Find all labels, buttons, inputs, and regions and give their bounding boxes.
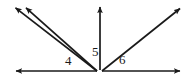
- angle-label-4: 4: [65, 54, 72, 67]
- angle-label-6: 6: [119, 53, 126, 66]
- ray-upper-left-outer: [16, 8, 98, 71]
- ray-group: [16, 7, 181, 71]
- angle-diagram: 4 5 6: [0, 0, 194, 77]
- geometry-canvas: [0, 0, 194, 77]
- angle-label-5: 5: [92, 45, 99, 58]
- ray-upper-left-inner: [26, 8, 97, 71]
- ray-upper-right: [102, 9, 180, 72]
